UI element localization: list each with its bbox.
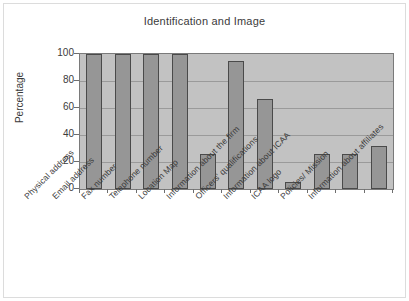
y-axis-tick: [74, 107, 79, 108]
y-axis-tick: [74, 134, 79, 135]
chart-title: Identification and Image: [0, 15, 409, 27]
x-axis-tick: [250, 189, 251, 193]
y-axis-title: Percentage: [14, 53, 25, 143]
plot-area: [79, 53, 394, 190]
x-axis-tick: [278, 189, 279, 193]
x-axis-tick: [164, 189, 165, 193]
x-axis-tick-labels: Physical addressEmail addressFax numberT…: [0, 188, 409, 301]
x-axis-tick: [107, 189, 108, 193]
y-axis-tick: [74, 161, 79, 162]
x-axis-tick: [335, 189, 336, 193]
x-axis-tick: [193, 189, 194, 193]
y-axis-tick: [74, 53, 79, 54]
x-axis-tick: [221, 189, 222, 193]
bar: [371, 146, 387, 189]
y-axis-tick-label: 100: [48, 48, 74, 58]
y-axis-tick-label: 60: [48, 102, 74, 112]
x-axis-tick: [392, 189, 393, 193]
y-axis-tick: [74, 80, 79, 81]
y-axis-tick-label: 20: [48, 156, 74, 166]
y-axis-tick-label: 80: [48, 75, 74, 85]
bar-series: [80, 54, 393, 189]
chart-container: Identification and Image Percentage Phys…: [0, 0, 409, 301]
x-axis-tick: [364, 189, 365, 193]
y-axis-tick-label: 0: [48, 183, 74, 193]
x-axis-tick: [79, 189, 80, 193]
x-axis-tick: [136, 189, 137, 193]
y-axis-tick-label: 40: [48, 129, 74, 139]
x-axis-tick: [307, 189, 308, 193]
